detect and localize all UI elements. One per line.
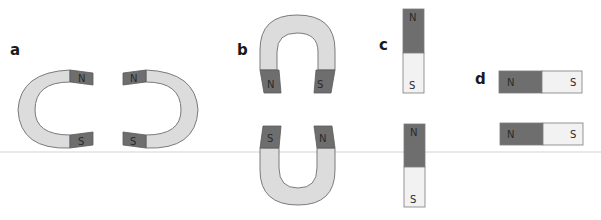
- pole-label-s: S: [78, 136, 84, 147]
- panel-label-b: b: [237, 41, 248, 59]
- horseshoe-magnet-b-top: N S: [260, 15, 335, 93]
- bar-magnet-c-lower: N S: [404, 124, 425, 207]
- north-pole: [499, 71, 542, 93]
- panel-label-a: a: [10, 41, 20, 59]
- pole-label-n: N: [409, 12, 416, 23]
- pole-label-n: N: [507, 129, 514, 140]
- horseshoe-magnet-b-bottom: S N: [260, 126, 335, 205]
- pole-label-n: N: [410, 127, 417, 138]
- pole-label-n: N: [130, 73, 137, 84]
- horseshoe-magnet-a-right: N S: [123, 70, 198, 148]
- pole-label-s: S: [410, 194, 416, 205]
- bar-magnet-d-upper: N S: [499, 71, 582, 93]
- bar-magnet-d-lower: N S: [500, 123, 583, 145]
- pole-label-n: N: [267, 79, 274, 90]
- south-pole: [543, 123, 583, 145]
- bar-magnet-c-upper: N S: [403, 9, 424, 93]
- pole-label-s: S: [130, 136, 136, 147]
- magnet-diagram: a N S N S b N S S N c N S N: [0, 0, 601, 220]
- pole-label-s: S: [570, 129, 576, 140]
- pole-label-n: N: [78, 73, 85, 84]
- horseshoe-magnet-a-left: N S: [18, 70, 93, 148]
- pole-label-n: N: [507, 77, 514, 88]
- pole-label-s: S: [570, 77, 576, 88]
- panel-label-c: c: [379, 36, 388, 54]
- pole-label-s: S: [317, 79, 323, 90]
- panel-label-d: d: [475, 70, 486, 88]
- pole-label-n: N: [319, 133, 326, 144]
- pole-label-s: S: [409, 80, 415, 91]
- pole-label-s: S: [267, 133, 273, 144]
